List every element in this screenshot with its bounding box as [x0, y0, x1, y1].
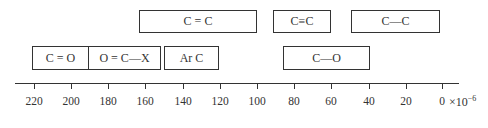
tick-label: 80 [288, 95, 300, 107]
box-label: C≡C [291, 14, 314, 29]
range-box-c-double-c: C = C [139, 10, 257, 33]
tick-label: 20 [400, 95, 412, 107]
box-label: Ar C [180, 51, 204, 66]
unit-exponent: −6 [468, 94, 477, 103]
axis-tick [442, 83, 443, 89]
axis-tick [257, 83, 258, 89]
axis-tick [145, 83, 146, 89]
tick-label: 200 [62, 95, 79, 107]
axis-tick [406, 83, 407, 89]
axis-tick [71, 83, 72, 89]
range-box-c-triple-c: C≡C [273, 10, 331, 33]
tick-label: 60 [325, 95, 337, 107]
tick-label: 120 [211, 95, 228, 107]
tick-label: 180 [99, 95, 116, 107]
axis-tick [369, 83, 370, 89]
tick-label: 220 [25, 95, 42, 107]
axis-tick [294, 83, 295, 89]
range-box-aromatic-c: Ar C [164, 46, 219, 70]
box-label: C—O [312, 51, 341, 66]
range-box-c-o: C—O [283, 46, 370, 70]
box-label: C = O [46, 51, 75, 66]
tick-label: 160 [136, 95, 153, 107]
axis-tick [331, 83, 332, 89]
box-label: C—C [381, 14, 409, 29]
tick-label: 40 [363, 95, 375, 107]
axis-tick [220, 83, 221, 89]
ppm-axis-line [15, 83, 459, 84]
box-label: O = C—X [99, 51, 149, 66]
tick-label: 140 [174, 95, 191, 107]
unit-prefix: ×10 [449, 95, 468, 109]
range-box-c-single-c: C—C [351, 10, 440, 33]
axis-tick [108, 83, 109, 89]
tick-label: 100 [248, 95, 265, 107]
range-box-acyl-x: O = C—X [88, 46, 161, 70]
range-box-carbonyl: C = O [32, 46, 89, 70]
box-label: C = C [184, 14, 213, 29]
axis-unit-label: ×10−6 [449, 94, 476, 110]
tick-label: 0 [439, 95, 445, 107]
axis-tick [183, 83, 184, 89]
axis-tick [34, 83, 35, 89]
